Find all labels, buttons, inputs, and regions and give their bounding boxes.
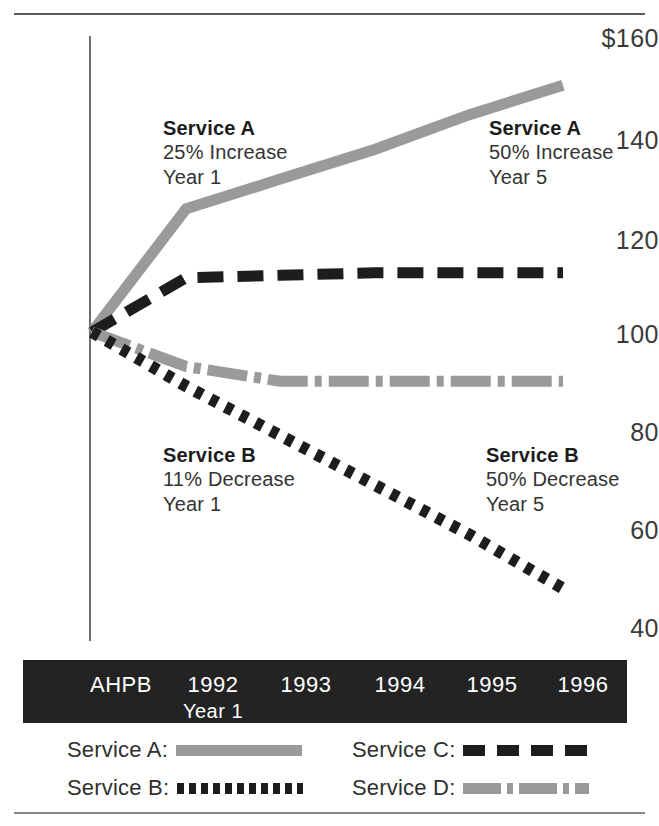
- x-sublabel-year1: Year 1: [183, 700, 243, 723]
- x-label-1994: 1994: [375, 672, 426, 698]
- annotation-title: Service A: [163, 116, 288, 140]
- x-label-1996: 1996: [558, 672, 609, 698]
- annotation-service-b-year1: Service B 11% Decrease Year 1: [163, 443, 295, 516]
- series-layer: [0, 0, 659, 660]
- annotation-line2: 11% Decrease: [163, 467, 295, 491]
- annotation-line3: Year 1: [163, 492, 295, 516]
- chart-legend: Service A: Service B: Service C: Service…: [0, 735, 659, 805]
- x-label-1992: 1992: [188, 672, 239, 698]
- annotation-line2: 50% Decrease: [486, 467, 620, 491]
- x-label-1995: 1995: [467, 672, 518, 698]
- legend-item-service-b: Service B:: [67, 775, 303, 801]
- legend-swatch-service-a: [176, 745, 302, 756]
- legend-swatch-service-c: [463, 745, 589, 756]
- annotation-line3: Year 1: [163, 165, 288, 189]
- annotation-service-a-year1: Service A 25% Increase Year 1: [163, 116, 288, 189]
- line-service-c: [92, 273, 563, 332]
- annotation-line3: Year 5: [486, 492, 620, 516]
- annotation-line3: Year 5: [489, 165, 614, 189]
- legend-label-service-a: Service A:: [67, 737, 168, 763]
- legend-item-service-a: Service A:: [67, 737, 302, 763]
- legend-swatch-service-d: [463, 783, 589, 794]
- chart-page: $160 140 120 100 80 60 40 Service A 25% …: [0, 0, 659, 826]
- legend-label-service-d: Service D:: [352, 775, 455, 801]
- x-label-ahpb: AHPB: [90, 672, 152, 698]
- x-axis-band: AHPB 1992 Year 1 1993 1994 1995 1996: [23, 660, 627, 723]
- annotation-title: Service A: [489, 116, 614, 140]
- legend-label-service-b: Service B:: [67, 775, 169, 801]
- legend-item-service-d: Service D:: [352, 775, 589, 801]
- legend-swatch-service-b: [177, 783, 303, 794]
- line-service-d: [92, 332, 563, 381]
- annotation-service-b-year5: Service B 50% Decrease Year 5: [486, 443, 620, 516]
- plot-area: $160 140 120 100 80 60 40 Service A 25% …: [0, 0, 659, 660]
- legend-label-service-c: Service C:: [352, 737, 455, 763]
- bottom-divider: [14, 812, 645, 814]
- annotation-service-a-year5: Service A 50% Increase Year 5: [489, 116, 614, 189]
- annotation-line2: 50% Increase: [489, 140, 614, 164]
- annotation-title: Service B: [163, 443, 295, 467]
- x-label-1993: 1993: [281, 672, 332, 698]
- annotation-title: Service B: [486, 443, 620, 467]
- legend-item-service-c: Service C:: [352, 737, 589, 763]
- annotation-line2: 25% Increase: [163, 140, 288, 164]
